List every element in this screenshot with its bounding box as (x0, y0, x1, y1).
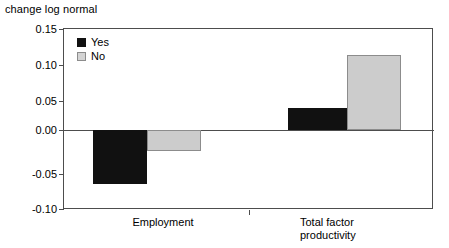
bar-no-employment (147, 130, 201, 151)
y-tick-mark (59, 130, 64, 131)
y-axis-label: 0.05 (11, 96, 57, 107)
plot-area: 0.15 0.10 0.05 0.00 -0.05 -0.10 Yes No (63, 28, 433, 209)
legend-item-no: No (77, 49, 109, 63)
y-axis-label: 0.10 (11, 60, 57, 71)
x-axis-label-tfp-line1: Total factor (300, 216, 400, 229)
x-axis-label-tfp-line2: productivity (300, 229, 400, 242)
legend-item-yes: Yes (77, 35, 109, 49)
category-separator-tick (249, 210, 250, 215)
y-tick-mark (59, 65, 64, 66)
chart-title: change log normal (5, 3, 97, 16)
x-axis-label-employment: Employment (118, 216, 208, 229)
bar-no-total-factor-productivity (347, 55, 401, 130)
bar-yes-employment (93, 130, 147, 184)
y-axis-label: 0.15 (11, 24, 57, 35)
y-tick-mark (59, 209, 64, 210)
x-axis-label-total-factor-productivity: Total factor productivity (300, 216, 400, 242)
y-axis-label: -0.10 (11, 204, 57, 215)
legend-label-yes: Yes (91, 35, 109, 49)
black-square-swatch-icon (77, 38, 86, 47)
x-axis-label-employment-line1: Employment (118, 216, 208, 229)
gray-square-swatch-icon (77, 52, 86, 61)
y-axis-label: 0.00 (11, 125, 57, 136)
y-tick-mark (59, 174, 64, 175)
y-tick-mark (59, 101, 64, 102)
legend-label-no: No (91, 49, 105, 63)
y-axis-label: -0.05 (11, 169, 57, 180)
bar-yes-total-factor-productivity (288, 108, 347, 130)
y-tick-mark (59, 29, 64, 30)
legend: Yes No (77, 35, 109, 63)
